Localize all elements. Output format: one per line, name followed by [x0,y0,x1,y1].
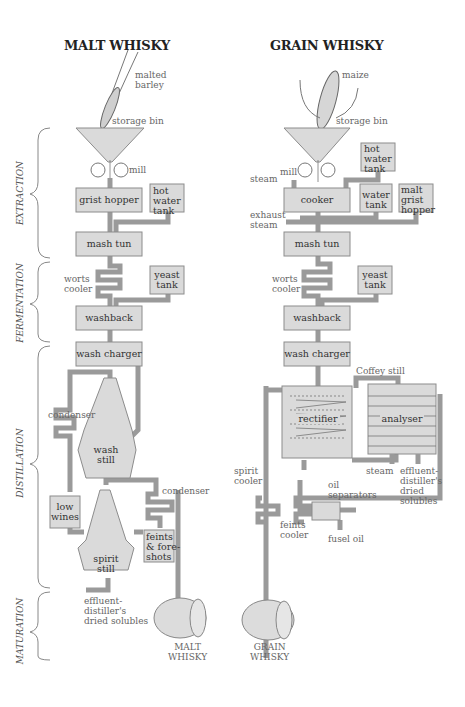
oil-separator-box [312,502,340,520]
malt-whisky-title: MALT WHISKY [64,38,170,53]
grain-yeast-tank-label: yeast tank [358,270,392,290]
malt-process [50,50,206,638]
grain-whisky-title: GRAIN WHISKY [270,38,383,53]
coffey-still-label: Coffey still [356,366,405,376]
fusel-oil-label: fusel oil [328,534,364,544]
low-wines-label: low wines [50,502,80,522]
grain-whisky-product-label: GRAIN WHISKY [250,642,289,662]
grain-washback-label: washback [284,313,350,323]
feints-cooler-label: feints cooler [280,520,308,540]
diagram-graphics: .f{fill:#dadada;stroke:#8c8c8c;stroke-wi… [0,0,465,707]
spirit-still-label: spirit still [86,554,126,574]
grain-mash-tun-label: mash tun [284,239,350,249]
rectifier-label: rectifier [296,414,340,424]
malt-washback-label: washback [76,313,142,323]
malt-yeast-tank-label: yeast tank [150,270,184,290]
maize-label: maize [342,70,369,80]
malt-hot-water-tank-label: hot water tank [150,186,187,216]
grain-steam-label: steam [366,466,393,476]
oil-separators-label: oil separators [328,480,377,500]
stage-fermentation: FERMENTATION [15,263,25,343]
malt-grist-hopper-label: malt grist hopper [399,185,435,215]
grain-storage-bin-label: storage bin [336,116,388,126]
stage-distillation: DISTILLATION [15,423,25,503]
grain-wash-charger-label: wash charger [284,349,350,359]
malt-mash-tun-label: mash tun [76,239,142,249]
malt-mill-label: mill [129,165,146,175]
stage-maturation: MATURATION [15,591,25,671]
grain-worts-cooler-label: worts cooler [272,274,300,294]
grain-effluent-label: effluent- distiller's dried solubles [400,466,442,506]
analyser-label: analyser [380,414,424,424]
steam-label: steam [250,174,277,184]
malted-barley-label: malted barley [135,70,166,90]
grist-hopper-label: grist hopper [76,195,142,205]
malt-worts-cooler-label: worts cooler [64,274,92,294]
water-tank-label: water tank [360,190,392,210]
malt-wash-charger-label: wash charger [76,349,142,359]
feints-foreshots-label: feints & fore- shots [144,532,176,562]
malt-effluent-label: effluent- distiller's dried solubles [84,596,148,626]
grain-hot-water-tank-label: hot water tank [361,144,398,174]
cooker-label: cooker [284,195,350,205]
stage-extraction: EXTRACTION [15,153,25,233]
malt-condenser2-label: condenser [162,486,209,496]
exhaust-steam-label: exhaust steam [250,210,286,230]
grain-mill-label: mill [280,167,297,177]
grain-process [242,69,440,658]
stage-braces [30,128,50,660]
wash-still-label: wash still [86,445,126,465]
malt-whisky-product-label: MALT WHISKY [168,642,207,662]
spirit-cooler-label: spirit cooler [234,466,262,486]
malt-condenser-label: condenser [48,410,95,420]
malt-storage-bin-label: storage bin [112,116,164,126]
